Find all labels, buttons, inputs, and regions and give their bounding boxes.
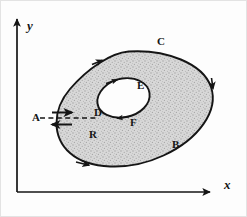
point-label-E: E	[137, 80, 144, 91]
point-label-A: A	[32, 112, 40, 123]
y-axis-label: y	[27, 19, 33, 32]
point-label-B: B	[172, 139, 179, 150]
point-label-D: D	[94, 107, 102, 118]
region-label-R: R	[89, 129, 97, 140]
point-label-F: F	[130, 117, 137, 128]
shaded-region-R	[0, 0, 247, 217]
x-axis-label: x	[224, 178, 231, 191]
diagram-svg	[0, 0, 247, 217]
point-label-C: C	[157, 36, 165, 47]
figure-canvas: y x A B C D E F R	[0, 0, 247, 217]
